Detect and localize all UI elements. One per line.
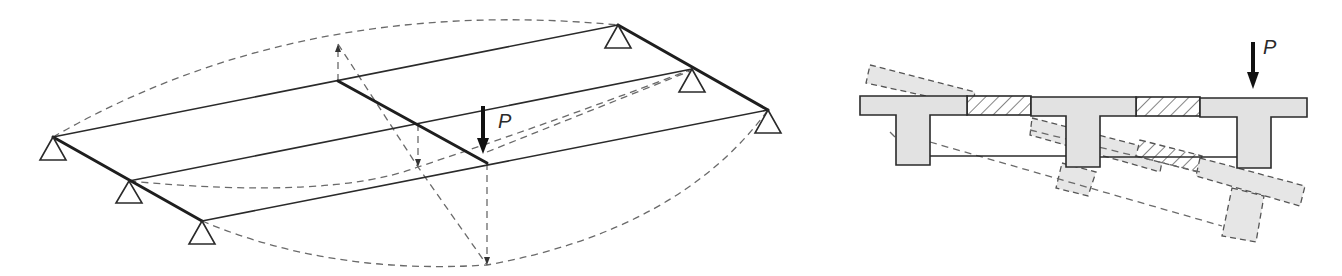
- hatched-connection-2: [1136, 97, 1200, 116]
- displaced-web-1-edge: [890, 132, 896, 138]
- down-arrow-icon: [484, 257, 490, 265]
- middle-transverse-girder: [338, 81, 487, 163]
- right-end-girder: [618, 25, 768, 110]
- grillage-diagram: P: [40, 20, 781, 267]
- load-label: P: [498, 110, 512, 132]
- beam-1: [53, 25, 618, 137]
- beam-2: [129, 69, 692, 181]
- beam-2-deflected-curve: [129, 69, 692, 188]
- girder-deflected-line: [338, 44, 487, 265]
- supports: [40, 25, 781, 244]
- support-triangle-icon: [189, 221, 215, 244]
- longitudinal-beams: [53, 25, 768, 221]
- hatched-connection-1: [967, 96, 1031, 115]
- cross-section-diagram: P: [860, 36, 1307, 242]
- structural-diagram: P: [0, 0, 1342, 276]
- point-load: P: [477, 106, 512, 154]
- deflected-shapes: [53, 20, 768, 267]
- left-end-girder: [53, 137, 202, 221]
- down-arrow-icon: [1247, 72, 1259, 89]
- cross-section-load: P: [1247, 36, 1277, 89]
- load-label: P: [1263, 36, 1277, 58]
- beam-2-reference-line: [487, 71, 690, 152]
- t-beam-1: [860, 96, 967, 165]
- displaced-web-3: [1222, 188, 1264, 242]
